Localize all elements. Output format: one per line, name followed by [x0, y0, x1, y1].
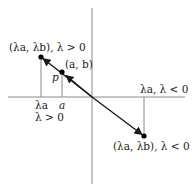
diagram-graphics: [0, 0, 193, 190]
label-point-lambda-pos: (λa, λb), λ > 0: [9, 42, 86, 53]
label-a: a: [59, 100, 65, 111]
point-ab: [59, 69, 64, 74]
vector-origin-to-lambda-neg: [92, 97, 142, 135]
point-lambda-neg: [141, 133, 146, 138]
label-lambda-a-neg: λa, λ < 0: [140, 84, 188, 95]
scalar-multiple-diagram: (λa, λb), λ > 0 (a, b) p λa a λ > 0 λa, …: [0, 0, 193, 190]
label-point-ab: (a, b): [65, 59, 93, 70]
point-lambda-pos: [38, 54, 43, 59]
vector-origin-to-ab: [66, 76, 92, 98]
label-p: p: [52, 72, 59, 83]
label-point-lambda-neg: (λa, λb), λ < 0: [113, 141, 190, 152]
label-lambda-a: λa: [35, 100, 48, 111]
label-lambda-pos: λ > 0: [35, 112, 64, 123]
